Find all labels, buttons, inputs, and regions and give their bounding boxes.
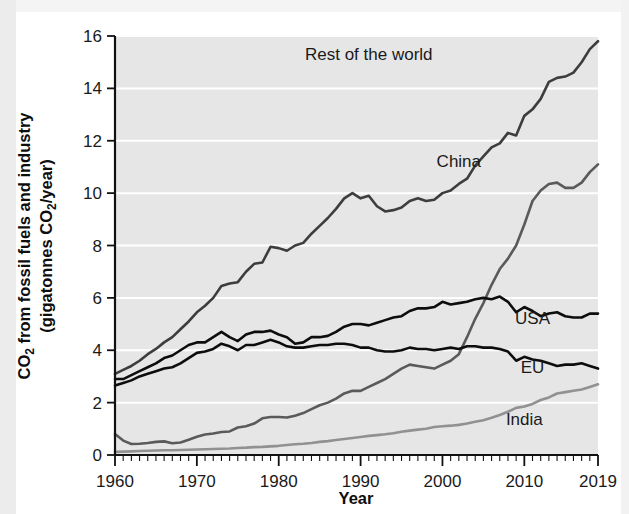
svg-text:(gigatonnes CO2/year): (gigatonnes CO2/year) <box>37 159 59 333</box>
x-tick-label-2019: 2019 <box>579 472 617 491</box>
x-tick-label-2010: 2010 <box>505 472 543 491</box>
y-tick-label-10: 10 <box>83 184 102 203</box>
y-tick-label-16: 16 <box>83 27 102 46</box>
x-tick-label-2000: 2000 <box>424 472 462 491</box>
series-label-india: India <box>506 410 543 429</box>
y-axis-title-unit-open: (gigatonnes CO <box>37 210 55 333</box>
series-label-usa: USA <box>515 309 551 328</box>
series-label-eu: EU <box>521 358 545 377</box>
co2-emissions-line-chart: 0246810121416 19601970198019902000201020… <box>0 0 629 514</box>
x-tick-label-1980: 1980 <box>260 472 298 491</box>
y-axis-title-rest: from fossil fuels and industry <box>15 112 33 348</box>
y-tick-label-8: 8 <box>93 237 102 256</box>
y-tick-label-0: 0 <box>93 446 102 465</box>
x-tick-label-1970: 1970 <box>178 472 216 491</box>
x-axis-minor-ticks <box>115 455 598 466</box>
series-label-china: China <box>437 152 482 171</box>
y-axis-title-unit-close: /year) <box>37 159 55 203</box>
y-tick-label-2: 2 <box>93 394 102 413</box>
y-axis-title: CO2 from fossil fuels and industry (giga… <box>15 112 59 380</box>
y-tick-label-6: 6 <box>93 289 102 308</box>
y-tick-label-12: 12 <box>83 132 102 151</box>
x-tick-label-1960: 1960 <box>96 472 134 491</box>
y-axis-title-co: CO <box>15 355 33 380</box>
x-axis-title: Year <box>339 489 374 507</box>
figure-container: 0246810121416 19601970198019902000201020… <box>0 0 629 514</box>
svg-text:CO2 from fossil fuels and indu: CO2 from fossil fuels and industry <box>15 112 37 380</box>
y-axis-ticks: 0246810121416 <box>83 27 115 465</box>
y-tick-label-4: 4 <box>93 341 102 360</box>
series-label-rest-of-the-world: Rest of the world <box>305 45 433 64</box>
y-tick-label-14: 14 <box>83 79 102 98</box>
